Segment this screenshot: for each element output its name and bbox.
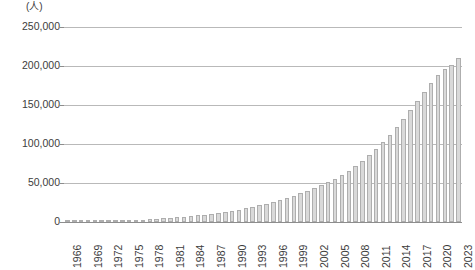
- bar: [161, 218, 166, 222]
- bar: [367, 155, 372, 222]
- bar: [415, 101, 420, 222]
- bar: [72, 220, 77, 222]
- bar: [230, 211, 235, 222]
- x-tick-label: 2014: [401, 245, 412, 268]
- x-tick-label: 1996: [278, 245, 289, 268]
- y-tick-label: 0: [2, 216, 60, 227]
- bar: [99, 220, 104, 222]
- bar: [250, 207, 255, 222]
- bar: [189, 216, 194, 222]
- bar: [106, 220, 111, 222]
- bar: [113, 220, 118, 222]
- bar: [278, 200, 283, 222]
- bar: [127, 220, 132, 222]
- bar: [333, 179, 338, 222]
- x-tick-label: 1990: [237, 245, 248, 268]
- y-tick-label: 250,000: [2, 21, 60, 32]
- bar: [223, 212, 228, 222]
- x-tick-label: 2002: [319, 245, 330, 268]
- bar: [148, 219, 153, 222]
- bar: [305, 191, 310, 222]
- y-axis: 250,000200,000150,000100,00050,0000: [0, 0, 60, 270]
- x-tick-label: 2005: [340, 245, 351, 268]
- x-tick-label: 1972: [113, 245, 124, 268]
- bar: [395, 127, 400, 222]
- bar: [244, 208, 249, 222]
- bar: [298, 193, 303, 222]
- x-tick-label: 1984: [195, 245, 206, 268]
- x-tick-label: 2008: [360, 245, 371, 268]
- bar: [65, 220, 70, 222]
- bar: [93, 220, 98, 222]
- bar-series: [64, 27, 462, 222]
- x-tick-label: 1978: [154, 245, 165, 268]
- bar: [257, 205, 262, 222]
- x-tick-label: 1987: [216, 245, 227, 268]
- bar: [209, 214, 214, 222]
- x-tick-label: 1981: [175, 245, 186, 268]
- x-tick-label: 1999: [298, 245, 309, 268]
- bar: [401, 119, 406, 222]
- bar: [292, 196, 297, 222]
- y-tick-label: 50,000: [2, 177, 60, 188]
- bar: [449, 65, 454, 222]
- bar: [340, 175, 345, 222]
- x-tick-label: 2023: [463, 245, 474, 268]
- bar: [381, 142, 386, 222]
- bar: [196, 215, 201, 222]
- bar: [79, 220, 84, 222]
- bar: [429, 83, 434, 222]
- y-tick-label: 200,000: [2, 60, 60, 71]
- bar: [408, 110, 413, 222]
- x-tick-label: 1993: [257, 245, 268, 268]
- bar: [319, 185, 324, 222]
- x-tick-label: 1975: [134, 245, 145, 268]
- y-tick-label: 100,000: [2, 138, 60, 149]
- bar: [360, 161, 365, 222]
- bar: [86, 220, 91, 222]
- bar: [285, 198, 290, 222]
- bar: [388, 135, 393, 222]
- bar: [271, 202, 276, 222]
- x-tick-label: 2011: [381, 245, 392, 268]
- bar: [456, 58, 461, 222]
- plot-area: [64, 27, 462, 222]
- bar: [168, 218, 173, 222]
- bar: [443, 69, 448, 222]
- x-tick-label: 1966: [72, 245, 83, 268]
- bar: [154, 219, 159, 222]
- bar: [264, 204, 269, 222]
- x-tick-label: 2017: [422, 245, 433, 268]
- bar: [422, 92, 427, 222]
- x-axis: 1966196919721975197819811984198719901993…: [64, 224, 474, 270]
- bar: [326, 182, 331, 222]
- bar: [120, 220, 125, 222]
- bar-chart: (人) 250,000200,000150,000100,00050,0000 …: [0, 0, 475, 270]
- bar: [312, 188, 317, 222]
- y-tick-label: 150,000: [2, 99, 60, 110]
- bar: [141, 220, 146, 222]
- bar: [374, 149, 379, 222]
- x-tick-label: 2020: [442, 245, 453, 268]
- bar: [436, 75, 441, 222]
- gridline-0: [64, 222, 462, 223]
- bar: [175, 217, 180, 222]
- bar: [347, 171, 352, 222]
- bar: [353, 166, 358, 222]
- bar: [134, 220, 139, 222]
- bar: [182, 217, 187, 222]
- x-tick-label: 1969: [93, 245, 104, 268]
- bar: [237, 210, 242, 222]
- bar: [202, 215, 207, 222]
- bar: [216, 213, 221, 222]
